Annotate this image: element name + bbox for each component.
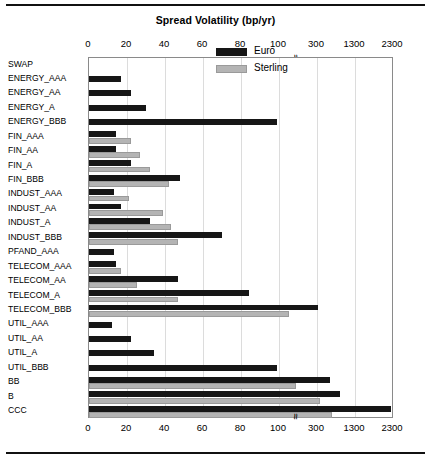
x-tick-label: 60 [182, 422, 222, 433]
bar-sterling [89, 311, 289, 317]
x-tick-label: 20 [106, 38, 146, 49]
legend-label: Sterling [254, 62, 288, 73]
bar-euro [89, 131, 116, 137]
bar-euro [89, 76, 121, 82]
gridline [355, 58, 356, 417]
x-tick-label: 100 [258, 422, 298, 433]
x-tick-label: 20 [106, 422, 146, 433]
category-label: FIN_AAA [8, 131, 86, 141]
category-label: UTIL_AAA [8, 318, 86, 328]
x-tick-label: 80 [220, 422, 260, 433]
bar-euro [89, 146, 116, 152]
plot-area [88, 57, 393, 418]
top-rule [6, 4, 425, 6]
bar-euro [89, 249, 114, 255]
category-label: ENERGY_AA [8, 87, 86, 97]
gridline [317, 58, 318, 417]
category-label: UTIL_AA [8, 333, 86, 343]
bar-euro [89, 406, 391, 412]
bar-sterling [89, 239, 178, 245]
bar-sterling [89, 224, 171, 230]
x-tick-label: 0 [68, 38, 108, 49]
bar-sterling [89, 181, 169, 187]
bar-euro [89, 350, 154, 356]
x-tick-label: 2300 [372, 38, 412, 49]
chart-title: Spread Volatility (bp/yr) [0, 14, 431, 26]
bar-euro [89, 105, 146, 111]
bar-sterling [89, 282, 137, 288]
axis-break-icon: ≈ [291, 413, 299, 418]
category-label: FIN_BBB [8, 174, 86, 184]
bar-euro [89, 218, 150, 224]
bar-euro [89, 322, 112, 328]
bar-euro [89, 90, 131, 96]
gridline [241, 58, 242, 417]
category-label: SWAP [8, 59, 86, 69]
bar-euro [89, 336, 131, 342]
category-label: TELECOM_AA [8, 275, 86, 285]
bar-sterling [89, 167, 150, 173]
legend-label: Euro [254, 45, 275, 56]
bottom-rule [6, 452, 425, 454]
bar-euro [89, 189, 114, 195]
bar-euro [89, 261, 116, 267]
x-tick-label: 2300 [372, 422, 412, 433]
bar-sterling [89, 152, 140, 158]
category-label: INDUST_A [8, 217, 86, 227]
bar-euro [89, 365, 277, 371]
category-label: ENERGY_BBB [8, 116, 86, 126]
bar-euro [89, 305, 318, 311]
bar-euro [89, 290, 249, 296]
bar-sterling [89, 196, 129, 202]
category-label: UTIL_BBB [8, 362, 86, 372]
category-label: PFAND_AAA [8, 246, 86, 256]
bar-euro [89, 232, 222, 238]
bar-euro [89, 160, 131, 166]
category-label: ENERGY_A [8, 102, 86, 112]
category-label: INDUST_BBB [8, 232, 86, 242]
bar-euro [89, 175, 180, 181]
category-label: FIN_AA [8, 145, 86, 155]
x-tick-label: 300 [296, 422, 336, 433]
bar-euro [89, 204, 121, 210]
category-label: UTIL_A [8, 347, 86, 357]
category-label: B [8, 391, 86, 401]
x-tick-label: 40 [144, 38, 184, 49]
x-tick-label: 40 [144, 422, 184, 433]
bar-euro [89, 391, 340, 397]
gridline [279, 58, 280, 417]
x-tick-label: 1300 [334, 38, 374, 49]
bar-sterling [89, 383, 296, 389]
category-label: TELECOM_AAA [8, 261, 86, 271]
legend-swatch-euro [216, 48, 247, 56]
category-label: TELECOM_A [8, 290, 86, 300]
category-label: FIN_A [8, 160, 86, 170]
bar-sterling [89, 138, 131, 144]
category-label: BB [8, 376, 86, 386]
category-label: CCC [8, 405, 86, 415]
bar-euro [89, 119, 277, 125]
category-label: INDUST_AAA [8, 188, 86, 198]
bar-sterling [89, 210, 163, 216]
category-label: ENERGY_AAA [8, 73, 86, 83]
figure-root: Spread Volatility (bp/yr) 02040608010030… [0, 0, 431, 460]
bar-sterling [89, 268, 121, 274]
bar-sterling [89, 398, 320, 404]
category-label: INDUST_AA [8, 203, 86, 213]
x-tick-label: 300 [296, 38, 336, 49]
legend-swatch-sterling [216, 65, 247, 73]
category-label: TELECOM_BBB [8, 304, 86, 314]
bar-euro [89, 377, 330, 383]
x-tick-label: 1300 [334, 422, 374, 433]
x-tick-label: 0 [68, 422, 108, 433]
bar-euro [89, 276, 178, 282]
bar-sterling [89, 297, 178, 303]
